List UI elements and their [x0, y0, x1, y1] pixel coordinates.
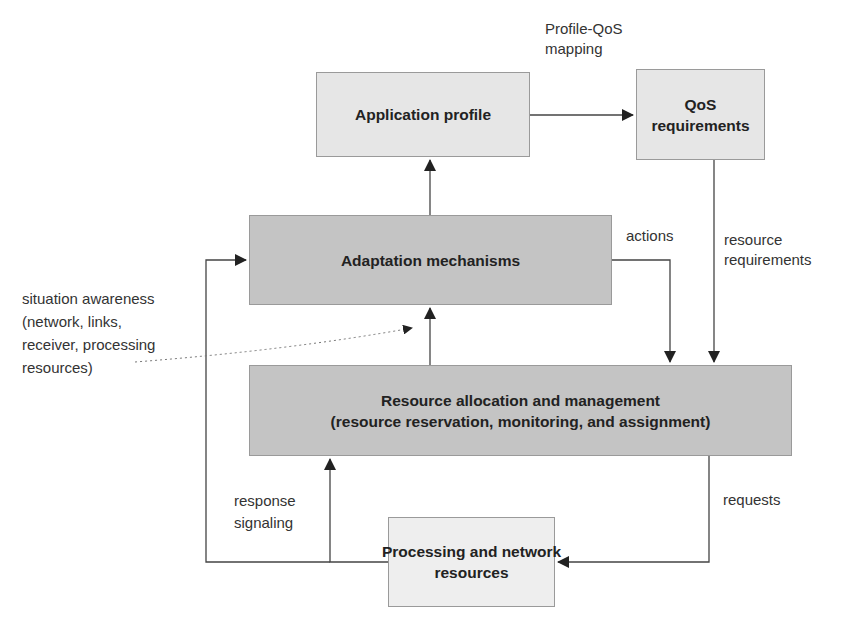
node-adaptation-mechanisms: Adaptation mechanisms [249, 215, 612, 305]
label-actions: actions [626, 226, 674, 246]
node-qos-requirements: QoS requirements [636, 69, 765, 160]
arrow-situation-awareness [135, 328, 412, 362]
node-label: Adaptation mechanisms [341, 250, 520, 271]
arrow-requests [558, 456, 709, 562]
node-resource-allocation: Resource allocation and management (reso… [249, 365, 792, 456]
label-resource-requirements: resource requirements [724, 230, 812, 270]
label-situation-awareness: situation awareness (network, links, rec… [22, 287, 155, 379]
node-label: Resource allocation and management (reso… [331, 390, 711, 432]
node-label: Application profile [355, 104, 491, 125]
node-application-profile: Application profile [316, 72, 530, 157]
node-label: Processing and network resources [382, 541, 561, 583]
arrow-response-signaling [330, 459, 388, 562]
label-profile-qos-mapping: Profile-QoS mapping [545, 19, 623, 59]
arrow-actions [612, 260, 670, 362]
label-response-signaling: response signaling [234, 490, 296, 534]
label-requests: requests [723, 490, 781, 510]
node-processing-resources: Processing and network resources [388, 517, 555, 607]
node-label: QoS requirements [651, 94, 749, 136]
